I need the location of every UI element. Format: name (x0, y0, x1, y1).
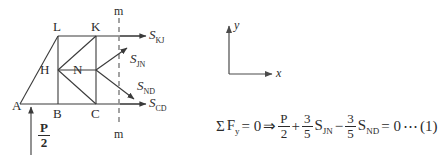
section-label-top-m: m (114, 5, 123, 17)
equation-force-sum-base: F (227, 117, 235, 133)
equation-term2-fraction: 3 5 (302, 112, 313, 140)
equation-force-sum: Fy (227, 117, 240, 136)
equation-term3-denominator: 5 (345, 126, 356, 141)
axis-label-y: y (234, 19, 239, 31)
equation-term2-base: S (315, 117, 323, 133)
coordinate-axes (229, 26, 272, 74)
node-label-C: C (91, 107, 100, 120)
equation-tag: (1) (420, 118, 438, 135)
figure-canvas: A B C L K H N m m SKJ SJN SND SCD P 2 y … (0, 0, 438, 164)
reaction-label-P-half: P 2 (38, 121, 50, 149)
equation-term3-variable: SND (358, 117, 379, 136)
equation-term2-variable: SJN (315, 117, 333, 136)
equation-term2-sub: JN (323, 126, 333, 136)
equation-implies: ⇒ (263, 117, 276, 135)
node-label-L: L (53, 20, 61, 33)
node-label-H: H (40, 63, 49, 76)
node-label-A: A (12, 99, 21, 112)
node-label-K: K (91, 20, 100, 33)
axis-label-x: x (276, 67, 281, 79)
equation-result: = 0 (381, 118, 401, 135)
member-A-L (20, 36, 58, 104)
equation-term2-denominator: 5 (302, 126, 313, 141)
section-label-bottom-m: m (114, 128, 123, 140)
force-label-SCD: SCD (149, 96, 167, 113)
force-label-SCD-sub: CD (156, 104, 167, 113)
equation-sigma: Σ (216, 118, 225, 135)
equation-term3-base: S (358, 117, 366, 133)
force-label-SKJ: SKJ (149, 28, 164, 45)
equation-minus: − (335, 118, 343, 135)
equation-term1-fraction: P 2 (278, 112, 289, 140)
equation-force-sum-sub: y (235, 126, 240, 136)
equation-term3-fraction: 3 5 (345, 112, 356, 140)
force-label-SJN-sub: JN (137, 60, 146, 69)
reaction-fraction: P 2 (38, 121, 50, 149)
equilibrium-equation: Σ Fy = 0 ⇒ P 2 + 3 5 SJN − 3 5 SND = 0 ⋯… (216, 112, 437, 140)
reaction-numerator: P (38, 121, 50, 135)
reaction-denominator: 2 (38, 135, 50, 150)
equation-dots: ⋯ (403, 117, 418, 135)
force-label-SKJ-sub: KJ (156, 36, 165, 45)
equation-term2-numerator: 3 (302, 112, 313, 126)
force-arrow-SJN (96, 48, 127, 70)
force-label-SND: SND (137, 79, 155, 96)
force-label-SJN: SJN (130, 52, 145, 69)
node-label-N: N (73, 63, 82, 76)
node-label-B: B (53, 107, 62, 120)
force-arrow-SND (96, 70, 134, 99)
equation-term1-denominator: 2 (278, 126, 289, 141)
equation-term1-numerator: P (278, 112, 289, 126)
equation-plus: + (292, 118, 300, 135)
equation-term3-numerator: 3 (345, 112, 356, 126)
equation-term3-sub: ND (366, 126, 379, 136)
equation-equals-zero: = 0 (242, 118, 262, 135)
